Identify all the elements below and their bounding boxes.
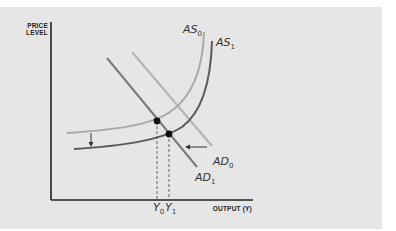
as-shift-arrow [89,133,94,147]
y1-label: Y1 [165,201,176,216]
as-ad-diagram: PRICE LEVEL OUTPUT (Y) AS0 AS1 AD0 AD1 Y… [0,0,396,231]
equilibrium-point-e0 [154,118,161,125]
as0-curve [67,32,204,133]
ad-shift-arrow [185,145,207,150]
as1-label: AS1 [215,36,235,51]
x-axis-label: OUTPUT (Y) [213,205,252,213]
equilibrium-point-e1 [166,131,173,138]
as1-curve [74,41,212,149]
as0-label: AS0 [182,23,202,38]
y0-label: Y0 [153,201,164,216]
ad0-label: AD0 [212,155,233,170]
ad1-label: AD1 [194,171,215,186]
y-axis-label-line2: LEVEL [26,29,48,36]
y-axis-label-line1: PRICE [27,22,48,29]
